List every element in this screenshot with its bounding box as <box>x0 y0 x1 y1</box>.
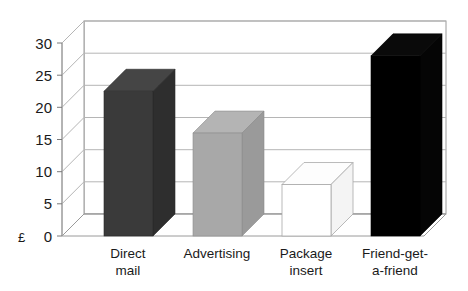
x-label-advertising-line1: Advertising <box>184 246 251 261</box>
y-tick-label-5: 5 <box>44 195 52 212</box>
bar-side-face-advertising <box>242 111 264 236</box>
x-label-friend-get-a-friend-line2: a-friend <box>372 263 418 278</box>
bar-front-face-friend-get-a-friend <box>371 56 420 236</box>
y-tick-label-0: 0 <box>44 228 52 245</box>
x-label-direct-mail-line1: Direct <box>110 246 146 261</box>
x-label-package-insert-line1: Package <box>280 246 333 261</box>
bar-group-direct-mail <box>104 69 175 236</box>
y-tick-label-10: 10 <box>35 163 52 180</box>
x-label-friend-get-a-friend-line1: Friend-get- <box>362 246 428 261</box>
bar-group-advertising <box>193 111 264 236</box>
y-tick-label-25: 25 <box>35 67 52 84</box>
x-label-package-insert-line2: insert <box>289 263 322 278</box>
bar-front-face-package-insert <box>282 185 331 236</box>
bar-group-friend-get-a-friend <box>371 34 442 236</box>
bar-front-face-advertising <box>193 133 242 236</box>
y-tick-label-30: 30 <box>35 35 52 52</box>
y-tick-label-15: 15 <box>35 131 52 148</box>
chart-canvas: 30 25 20 15 10 5 0 £ Direct mail Adverti… <box>0 0 468 291</box>
bar-side-face-direct-mail <box>153 69 175 236</box>
y-axis-unit-label: £ <box>18 230 26 245</box>
bar-front-face-direct-mail <box>104 91 153 236</box>
bar-chart-figure: 30 25 20 15 10 5 0 £ Direct mail Adverti… <box>0 0 468 291</box>
bar-side-face-friend-get-a-friend <box>420 34 442 236</box>
bar-group-package-insert <box>282 163 353 236</box>
y-tick-label-20: 20 <box>35 99 52 116</box>
x-label-direct-mail-line2: mail <box>116 263 141 278</box>
